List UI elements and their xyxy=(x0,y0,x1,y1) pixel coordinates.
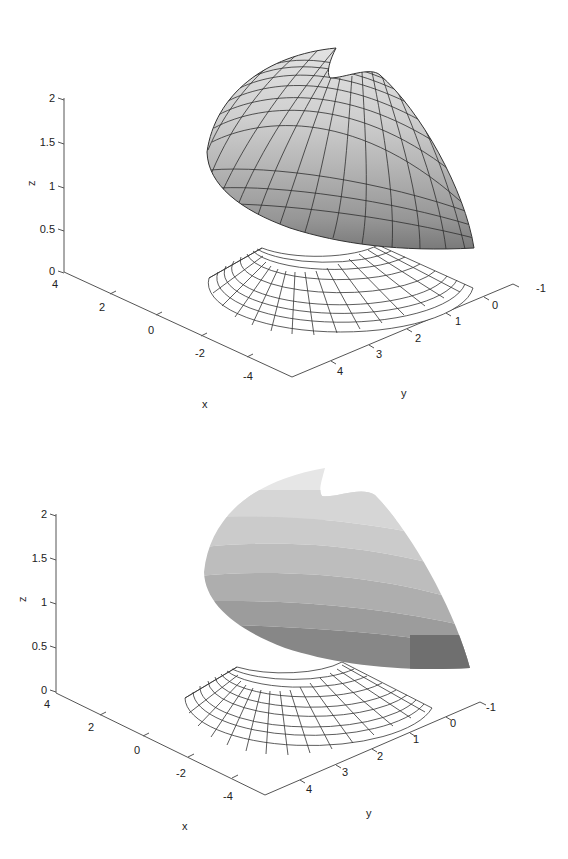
y-axis-label: y xyxy=(366,807,372,819)
tick-label: -1 xyxy=(536,282,546,294)
tick-label: 2 xyxy=(41,508,47,520)
base-wireframe-top xyxy=(208,245,473,335)
tick-label: -1 xyxy=(486,701,496,713)
tick-label: -2 xyxy=(176,767,186,779)
tick-label: 4 xyxy=(337,365,343,377)
tick-label: 2 xyxy=(415,332,421,344)
tick-label: 4 xyxy=(306,783,312,795)
tick-label: 0.5 xyxy=(40,223,55,235)
tick-label: 0 xyxy=(450,717,456,729)
tick-label: 0 xyxy=(492,299,498,311)
base-wireframe-bottom xyxy=(185,662,432,755)
tick-label: 1 xyxy=(41,596,47,608)
plot-top-canvas: 2 1.5 1 0.5 0 z 4 2 0 -2 -4 x -1 0 1 2 3… xyxy=(0,0,568,420)
z-tick-labels-bottom: 2 1.5 1 0.5 0 xyxy=(32,508,47,696)
tick-label: 2 xyxy=(377,750,383,762)
tick-label: 0 xyxy=(49,265,55,277)
x-axis-label: x xyxy=(202,398,208,410)
z-axis-label: z xyxy=(25,181,37,187)
tick-label: 2 xyxy=(88,721,94,733)
tick-label: -2 xyxy=(195,347,205,359)
tick-label: 1.5 xyxy=(32,552,47,564)
surface-plot-faceted: 2 1.5 1 0.5 0 z 4 2 0 -2 -4 x -1 0 1 2 3… xyxy=(0,0,568,420)
tick-label: 0 xyxy=(134,744,140,756)
tick-label: 1.5 xyxy=(40,136,55,148)
tick-label: 4 xyxy=(52,278,58,290)
tick-label: 0 xyxy=(148,324,154,336)
surface-faceted xyxy=(207,48,474,249)
y-axis-label: y xyxy=(401,387,407,399)
tick-label: 4 xyxy=(44,698,50,710)
tick-label: 2 xyxy=(49,92,55,104)
x-axis-label: x xyxy=(182,820,188,832)
tick-label: 1 xyxy=(455,315,461,327)
tick-label: 1 xyxy=(49,180,55,192)
tick-label: -4 xyxy=(243,370,253,382)
tick-label: 3 xyxy=(342,766,348,778)
surface-plot-interpolated: 2 1.5 1 0.5 0 z 4 2 0 -2 -4 x -1 0 1 2 3… xyxy=(0,420,568,840)
tick-label: 2 xyxy=(99,301,105,313)
tick-label: 3 xyxy=(376,348,382,360)
tick-label: 1 xyxy=(413,733,419,745)
tick-label: 0.5 xyxy=(32,640,47,652)
z-axis-label: z xyxy=(16,597,28,603)
surface-interpolated xyxy=(180,460,490,680)
plot-bottom-canvas: 2 1.5 1 0.5 0 z 4 2 0 -2 -4 x -1 0 1 2 3… xyxy=(0,420,568,840)
tick-label: 0 xyxy=(41,684,47,696)
z-tick-labels-top: 2 1.5 1 0.5 0 xyxy=(40,92,55,277)
tick-label: -4 xyxy=(223,790,233,802)
